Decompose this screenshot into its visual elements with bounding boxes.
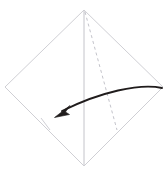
origami-diagram-canvas — [0, 0, 168, 170]
origami-diagram-svg — [0, 0, 168, 170]
